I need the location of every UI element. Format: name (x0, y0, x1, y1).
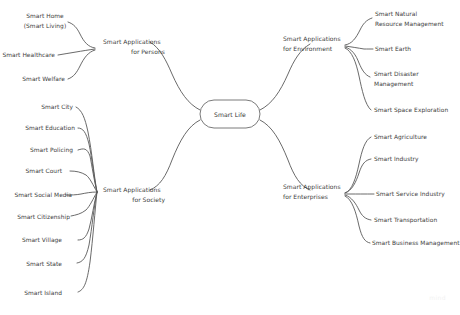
leaf-environment-smart-natural-resource[interactable]: Smart Natural Resource Management (375, 11, 444, 28)
leaf-smart-policing-label: Smart Policing (30, 147, 73, 154)
branch-label-environment[interactable]: Smart Applications for Environment (283, 35, 341, 52)
edge-society-smart-education (78, 128, 97, 192)
edge-persons-smart-healthcare (58, 49, 95, 55)
leaf-society-smart-state[interactable]: Smart State (26, 261, 62, 267)
leaf-society-smart-island[interactable]: Smart Island (24, 290, 62, 296)
branch-society-line1: Smart Applications (103, 186, 161, 194)
branch-persons-line2: for Persons (131, 48, 165, 55)
root-node[interactable]: Smart Life (200, 100, 260, 128)
edge-enterprises-smart-business-management (345, 196, 370, 243)
society-edges (66, 107, 97, 292)
leaf-smart-welfare-label: Smart Welfare (22, 76, 65, 82)
branch-persons-line1: Smart Applications (103, 38, 161, 46)
edge-environment-smart-natural-resource (345, 18, 372, 45)
branch-enterprises-line1: Smart Applications (283, 183, 341, 191)
edge-enterprises-smart-industry (345, 159, 371, 193)
leaf-smart-court-label: Smart Court (26, 168, 63, 174)
root-node-label: Smart Life (214, 111, 246, 118)
leaf-smart-service-industry-label: Smart Service Industry (376, 191, 445, 198)
leaf-smart-healthcare-label: Smart Healthcare (2, 52, 55, 58)
enterprises-edges (345, 137, 374, 243)
leaf-environment-smart-disaster[interactable]: Smart Disaster Management (374, 71, 419, 88)
leaf-enterprises-smart-agriculture[interactable]: Smart Agriculture (374, 134, 427, 141)
leaf-smart-village-label: Smart Village (22, 237, 62, 244)
leaf-smart-home-line1: Smart Home (26, 13, 64, 19)
persons-edges (58, 22, 95, 79)
watermark: mind (429, 294, 446, 301)
leaf-enterprises-smart-transportation[interactable]: Smart Transportation (374, 217, 437, 224)
leaf-smart-disaster-line2: Management (374, 81, 414, 88)
edge-enterprises-smart-agriculture (345, 137, 371, 193)
branch-environment-line2: for Environment (283, 45, 333, 52)
edge-root-environment (260, 44, 310, 110)
edge-persons-smart-home (68, 22, 95, 48)
leaf-smart-natural-resource-line1: Smart Natural (375, 11, 417, 17)
edge-root-enterprises (260, 120, 310, 190)
branch-society-line2: for Society (132, 196, 165, 204)
branch-label-society[interactable]: Smart Applications for Society (103, 186, 165, 204)
leaf-smart-citizenship-label: Smart Citizenship (17, 214, 70, 221)
leaf-smart-education-label: Smart Education (25, 125, 75, 131)
leaf-smart-industry-label: Smart Industry (374, 156, 419, 163)
leaf-smart-social-media-label: Smart Social Media (14, 192, 72, 198)
leaf-smart-space-exploration-label: Smart Space Exploration (374, 107, 448, 114)
edge-environment-smart-space-exploration (345, 48, 371, 110)
leaf-persons-smart-home[interactable]: Smart Home (Smart Living) (24, 13, 67, 30)
leaf-environment-smart-earth[interactable]: Smart Earth (375, 46, 411, 52)
edge-society-smart-village (78, 192, 97, 240)
leaf-environment-smart-space-exploration[interactable]: Smart Space Exploration (374, 107, 448, 114)
leaf-enterprises-smart-industry[interactable]: Smart Industry (374, 156, 419, 163)
leaf-persons-smart-welfare[interactable]: Smart Welfare (22, 76, 65, 82)
leaf-enterprises-smart-business-management[interactable]: Smart Business Management (372, 240, 460, 247)
leaf-society-smart-city[interactable]: Smart City (41, 104, 73, 111)
leaf-persons-smart-healthcare[interactable]: Smart Healthcare (2, 52, 55, 58)
branch-enterprises-line2: for Enterprises (283, 193, 328, 201)
leaf-society-smart-policing[interactable]: Smart Policing (30, 147, 73, 154)
leaf-society-smart-court[interactable]: Smart Court (26, 168, 63, 174)
mind-map-canvas: Smart Life Smart Applications for Person… (0, 0, 460, 315)
leaf-society-smart-social-media[interactable]: Smart Social Media (14, 192, 72, 198)
leaf-smart-earth-label: Smart Earth (375, 46, 411, 52)
leaf-smart-natural-resource-line2: Resource Management (375, 21, 444, 28)
leaf-smart-home-line2: (Smart Living) (24, 23, 67, 30)
leaf-smart-agriculture-label: Smart Agriculture (374, 134, 427, 141)
branch-environment-line1: Smart Applications (283, 35, 341, 43)
leaf-smart-city-label: Smart City (41, 104, 73, 111)
environment-edges (345, 18, 373, 110)
edge-society-smart-citizenship (71, 192, 97, 216)
edge-persons-smart-welfare (68, 50, 95, 79)
edge-environment-smart-disaster (345, 47, 370, 77)
leaf-smart-business-management-label: Smart Business Management (372, 240, 460, 247)
leaf-enterprises-smart-service-industry[interactable]: Smart Service Industry (376, 191, 445, 198)
branch-label-enterprises[interactable]: Smart Applications for Enterprises (283, 183, 341, 201)
leaf-society-smart-citizenship[interactable]: Smart Citizenship (17, 214, 70, 221)
leaf-smart-disaster-line1: Smart Disaster (374, 71, 419, 77)
leaf-smart-island-label: Smart Island (24, 290, 62, 296)
leaf-smart-transportation-label: Smart Transportation (374, 217, 437, 224)
leaf-smart-state-label: Smart State (26, 261, 62, 267)
leaf-society-smart-village[interactable]: Smart Village (22, 237, 62, 244)
edge-root-society (150, 120, 200, 190)
leaf-society-smart-education[interactable]: Smart Education (25, 125, 75, 131)
